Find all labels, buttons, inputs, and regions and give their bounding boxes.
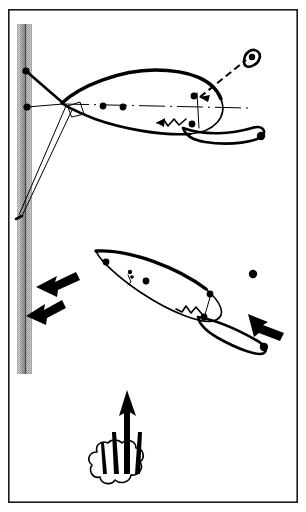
lower-node-6 [201,314,208,321]
column-node-lower [23,103,30,110]
chord-node-1 [100,103,107,110]
lower-node-4 [143,278,150,285]
chord-node-2 [120,104,127,111]
tail-tip-node [257,132,265,140]
plume-arrow-shaft [124,409,130,474]
lower-tail-tip-node [260,343,268,351]
lower-node-5 [207,291,214,298]
free-node [249,270,257,278]
column-node-upper [22,67,29,74]
figure-root [0,0,306,512]
station-node-top [191,93,198,100]
lower-node-3 [130,275,134,279]
technical-drawing-canvas [0,0,306,512]
lower-node-1 [103,259,110,266]
station-node-bottom [189,121,196,128]
lower-node-2 [128,270,132,274]
